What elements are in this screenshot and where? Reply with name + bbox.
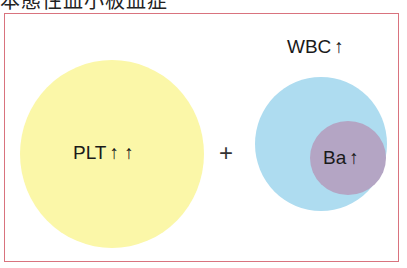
up-arrow-icon: ↑ (349, 148, 359, 168)
plt-label-group: PLT↑ ↑ (73, 143, 134, 163)
plt-label: PLT (73, 142, 106, 163)
diagram-title: 本態性血小板血症 (0, 0, 168, 11)
wbc-label: WBC (287, 36, 331, 57)
up-arrow-icon: ↑ (334, 37, 344, 57)
ba-label-group: Ba↑ (323, 148, 359, 168)
ba-label: Ba (323, 147, 346, 168)
up-arrow-icon: ↑ ↑ (109, 143, 133, 163)
wbc-label-group: WBC↑ (287, 37, 344, 57)
plus-sign: + (219, 141, 233, 165)
